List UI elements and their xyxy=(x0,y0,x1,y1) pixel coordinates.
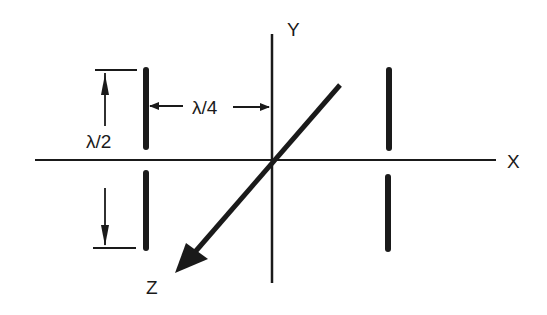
dipole-array-diagram: λ/2 λ/4 Y X Z xyxy=(0,0,547,315)
quarter-wavelength-label: λ/4 xyxy=(192,97,218,118)
x-axis-label: X xyxy=(507,151,520,172)
y-axis-label: Y xyxy=(287,19,300,40)
half-wavelength-label: λ/2 xyxy=(86,131,111,152)
z-axis-label: Z xyxy=(146,277,158,298)
